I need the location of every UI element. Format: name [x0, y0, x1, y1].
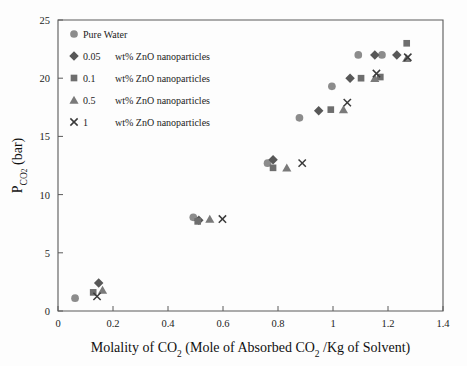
chart-figure: 00.20.40.60.811.21.40510152025 Pure Wate… [0, 0, 467, 366]
legend-marker-square [71, 75, 78, 82]
x-tick-label: 0.4 [161, 318, 175, 329]
data-point-x [219, 215, 226, 222]
data-point-triangle [339, 105, 348, 113]
series-circle [71, 51, 386, 302]
scatter-plot: 00.20.40.60.811.21.40510152025 Pure Wate… [0, 0, 467, 366]
x-tick-label: 1 [330, 318, 335, 329]
data-point-diamond [345, 73, 355, 83]
legend-value: 0.05 [83, 51, 101, 62]
legend-label: Pure Water [83, 29, 128, 40]
y-axis-title: PCO2 (bar) [10, 137, 29, 193]
data-point-square [403, 40, 410, 47]
series-diamond [94, 50, 402, 288]
text-run: Molality of CO [91, 340, 177, 355]
text-run: (Mole of Absorbed CO [182, 340, 315, 356]
x-tick-label: 0.2 [106, 318, 119, 329]
y-tick-label: 15 [40, 131, 51, 142]
y-tick-label: 10 [40, 190, 51, 201]
x-tick-label: 0.6 [216, 318, 229, 329]
data-point-x [344, 99, 351, 106]
text-run: P [10, 185, 25, 193]
text-run: /Kg of Solvent) [320, 340, 411, 356]
series-triangle [98, 54, 411, 294]
data-point-triangle [205, 215, 214, 223]
legend-value: 0.5 [83, 95, 96, 106]
legend-marker-x [70, 118, 77, 125]
data-point-triangle [282, 163, 291, 171]
data-point-circle [71, 294, 79, 302]
data-point-diamond [392, 50, 402, 60]
y-tick-label: 25 [40, 15, 51, 26]
legend-label: wt% ZnO nanoparticles [115, 51, 210, 62]
y-tick-label: 5 [45, 248, 50, 259]
data-point-square [194, 218, 201, 225]
plot-frame [58, 20, 443, 311]
legend-marker-circle [70, 30, 78, 38]
data-point-circle [296, 114, 304, 122]
data-point-diamond [94, 278, 104, 288]
data-point-x [93, 293, 100, 300]
data-point-circle [328, 82, 336, 90]
x-tick-label: 1.4 [436, 318, 450, 329]
data-point-square [270, 165, 277, 172]
legend-label: wt% ZnO nanoparticles [115, 117, 210, 128]
data-point-square [327, 106, 334, 113]
data-point-diamond [314, 106, 324, 116]
legend-label: wt% ZnO nanoparticles [115, 73, 210, 84]
legend-value: 0.1 [83, 73, 96, 84]
axis-titles-layer: Molality of CO2 (Mole of Absorbed CO2 /K… [10, 137, 411, 359]
data-point-x [299, 160, 306, 167]
subscript: CO [19, 172, 29, 185]
data-point-circle [354, 51, 362, 59]
legend-label: wt% ZnO nanoparticles [115, 95, 210, 106]
x-tick-label: 0 [55, 318, 60, 329]
legend-marker-triangle [69, 96, 78, 104]
chart-legend: Pure Water0.05wt% ZnO nanoparticles0.1wt… [69, 29, 210, 128]
y-tick-label: 20 [40, 73, 51, 84]
legend-value: 1 [83, 117, 88, 128]
y-tick-label: 0 [45, 306, 50, 317]
x-axis-title: Molality of CO2 (Mole of Absorbed CO2 /K… [91, 340, 411, 359]
legend-marker-diamond [69, 51, 79, 61]
data-point-x [373, 70, 380, 77]
data-point-diamond [370, 50, 380, 60]
x-tick-label: 0.8 [271, 318, 284, 329]
x-tick-label: 1.2 [381, 318, 394, 329]
data-point-square [358, 75, 365, 82]
text-run: (bar) [10, 137, 26, 168]
series-x [93, 54, 411, 300]
